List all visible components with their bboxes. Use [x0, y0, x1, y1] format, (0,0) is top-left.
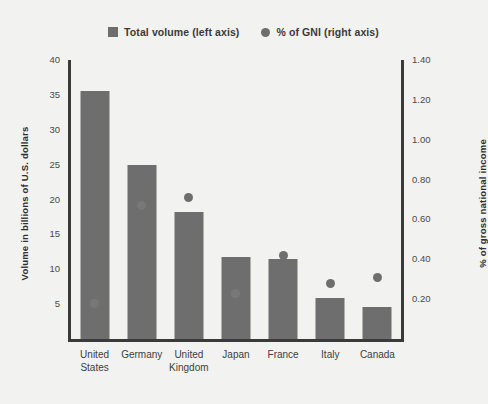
- y-tick-right-6: 0.20: [412, 293, 460, 304]
- bar-france: [269, 259, 298, 339]
- bar-group: [260, 60, 307, 339]
- y-tick-left-3: 25: [20, 159, 60, 170]
- x-axis-category-labels: UnitedStatesGermanyUnitedKingdomJapanFra…: [71, 348, 401, 394]
- bar-japan: [221, 257, 250, 339]
- x-label-united-kingdom: UnitedKingdom: [165, 348, 212, 374]
- x-label-canada: Canada: [354, 348, 401, 361]
- dot-united-states: [90, 299, 99, 308]
- y-tick-right-0: 1.40: [412, 54, 460, 65]
- y-tick-left-6: 10: [20, 263, 60, 274]
- legend-item-pct-gni: % of GNI (right axis): [261, 26, 378, 38]
- bar-group: [165, 60, 212, 339]
- x-label-japan: Japan: [212, 348, 259, 361]
- dot-canada: [373, 273, 382, 282]
- legend-label-pct-gni: % of GNI (right axis): [276, 26, 378, 38]
- y-axis-right-title: % of gross national income: [477, 114, 488, 294]
- x-label-germany: Germany: [118, 348, 165, 361]
- y-tick-left-2: 30: [20, 124, 60, 135]
- bar-group: [307, 60, 354, 339]
- bar-united-kingdom: [174, 212, 203, 339]
- bar-germany: [127, 165, 156, 339]
- y-tick-left-1: 35: [20, 89, 60, 100]
- x-axis-line: [68, 339, 404, 342]
- y-axis-right-line: [401, 60, 404, 342]
- y-tick-right-1: 1.20: [412, 94, 460, 105]
- bar-group: [212, 60, 259, 339]
- square-swatch-icon: [108, 27, 118, 37]
- bar-canada: [363, 307, 392, 339]
- dot-italy: [326, 279, 335, 288]
- dot-france: [279, 251, 288, 260]
- circle-swatch-icon: [261, 28, 270, 37]
- legend-label-total-volume: Total volume (left axis): [124, 26, 239, 38]
- y-tick-left-4: 20: [20, 194, 60, 205]
- y-tick-right-3: 0.80: [412, 174, 460, 185]
- series-container: [71, 60, 401, 339]
- dot-united-kingdom: [184, 193, 193, 202]
- bar-group: [71, 60, 118, 339]
- plot-area: 403530252015105 1.401.201.000.800.600.40…: [68, 60, 404, 342]
- bar-group: [118, 60, 165, 339]
- y-tick-right-2: 1.00: [412, 134, 460, 145]
- bar-group: [354, 60, 401, 339]
- legend-item-total-volume: Total volume (left axis): [108, 26, 239, 38]
- y-tick-right-4: 0.60: [412, 213, 460, 224]
- x-label-united-states: UnitedStates: [71, 348, 118, 374]
- chart-legend: Total volume (left axis) % of GNI (right…: [0, 26, 487, 38]
- y-tick-left-0: 40: [20, 54, 60, 65]
- y-tick-left-7: 5: [20, 298, 60, 309]
- x-label-france: France: [260, 348, 307, 361]
- x-label-italy: Italy: [307, 348, 354, 361]
- bar-italy: [316, 298, 345, 339]
- y-tick-right-5: 0.40: [412, 253, 460, 264]
- y-tick-left-5: 15: [20, 228, 60, 239]
